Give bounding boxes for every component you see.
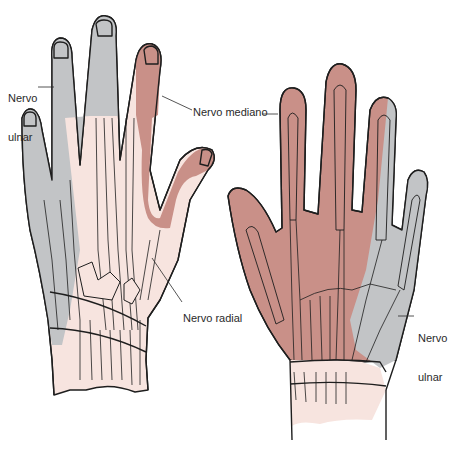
label-palmar-ulnar-nerve: Nervo ulnar	[418, 306, 447, 397]
dorsal-hand	[22, 16, 214, 395]
palmar-hand	[228, 64, 428, 440]
label-line: Nervo	[418, 332, 447, 345]
dorsal-hand-median-area	[136, 44, 214, 228]
palmar-wrist-area	[290, 360, 386, 426]
label-radial-nerve: Nervo radial	[183, 312, 242, 325]
label-line: ulnar	[8, 131, 37, 144]
label-median-nerve: Nervo mediano	[193, 106, 268, 119]
label-line: ulnar	[418, 371, 447, 384]
label-line: Nervo	[8, 92, 37, 105]
label-dorsal-ulnar-nerve: Nervo ulnar	[8, 66, 37, 157]
hand-diagram	[0, 0, 457, 458]
